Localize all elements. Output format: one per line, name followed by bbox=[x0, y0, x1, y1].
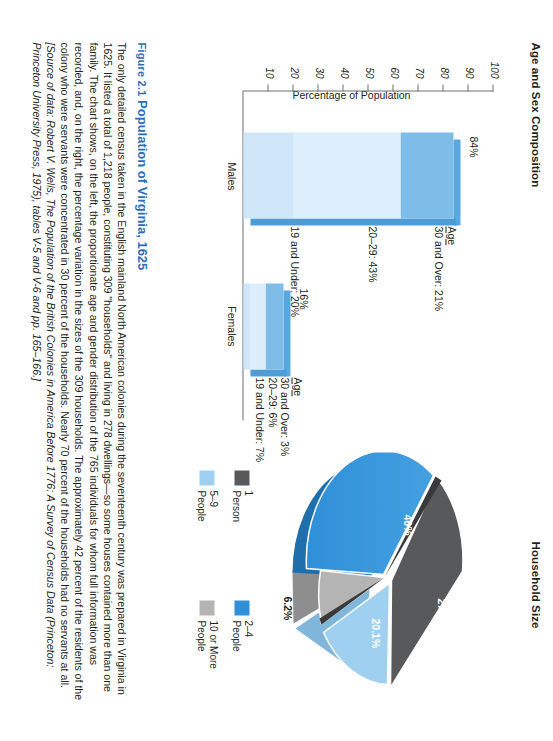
legend-swatch-1-person bbox=[234, 470, 249, 485]
legend-item-5-9: 5–9 People bbox=[195, 470, 218, 522]
figure-canvas: Age and Sex Composition Percentage of Po… bbox=[0, 0, 553, 741]
y-tick-label: 60 bbox=[388, 44, 399, 78]
y-tick-label: 50 bbox=[363, 44, 374, 78]
y-tick-mark bbox=[367, 84, 368, 91]
y-tick-label: 40 bbox=[338, 44, 349, 78]
bar-chart-title: Age and Sex Composition bbox=[529, 42, 541, 187]
figure-number: Figure 2.1 bbox=[135, 42, 147, 96]
rotated-page-wrapper: Age and Sex Composition Percentage of Po… bbox=[0, 0, 553, 741]
pie-legend-column-right: 2–4 People 10 or More People bbox=[183, 600, 253, 668]
y-tick-mark bbox=[392, 84, 393, 91]
males-category-label: Males bbox=[225, 130, 237, 222]
y-tick-mark bbox=[292, 84, 293, 91]
legend-label-2-4: 2–4 People bbox=[230, 620, 253, 651]
males-age-20to29: 20–29: 43% bbox=[366, 226, 379, 282]
caption-source-text: [Source of data: Robert V. Wells, The Po… bbox=[30, 42, 56, 667]
pie-chart-title: Household Size bbox=[529, 541, 541, 628]
legend-swatch-5-9 bbox=[199, 470, 214, 485]
pie-chart-graphic: 46% 27.8% 20.1% 6.2% bbox=[259, 452, 509, 702]
figure-title: Population of Virginia, 1625 bbox=[134, 100, 149, 270]
y-tick-label: 80 bbox=[438, 44, 449, 78]
females-age-heading: Age bbox=[291, 377, 303, 396]
females-age-annotation: Age 30 and Over: 3% 20–29: 6% 19 and Und… bbox=[253, 377, 303, 462]
y-tick-mark bbox=[492, 84, 493, 91]
females-age-20to29: 20–29: 6% bbox=[266, 377, 278, 427]
y-tick-mark bbox=[317, 84, 318, 91]
legend-label-10-or-more: 10 or More People bbox=[195, 620, 218, 668]
y-tick-mark bbox=[342, 84, 343, 91]
y-tick-label: 100 bbox=[488, 44, 499, 78]
females-category-label: Females bbox=[225, 280, 237, 372]
pie-svg bbox=[259, 452, 509, 702]
bar-females bbox=[243, 283, 290, 369]
legend-item-2-4: 2–4 People bbox=[230, 600, 253, 668]
y-tick-label: 10 bbox=[263, 44, 274, 78]
legend-item-10-or-more: 10 or More People bbox=[195, 600, 218, 668]
caption-title-line: Figure 2.1 Population of Virginia, 1625 bbox=[134, 42, 149, 710]
females-total-label: 16% bbox=[297, 288, 309, 309]
males-age-annotation: Age 30 and Over: 21% bbox=[432, 226, 457, 311]
pie-label-10-or-more: 6.2% bbox=[281, 596, 293, 620]
pie-legend-column-left: 1 Person 5–9 People bbox=[183, 470, 253, 522]
figure-graphic-area: Age and Sex Composition Percentage of Po… bbox=[155, 0, 553, 741]
legend-item-1-person: 1 Person bbox=[230, 470, 253, 522]
y-tick-label: 30 bbox=[313, 44, 324, 78]
females-age-19under: 19 and Under: 7% bbox=[254, 377, 266, 462]
pie-label-2-4: 46% bbox=[401, 514, 413, 535]
legend-swatch-2-4 bbox=[234, 600, 249, 615]
females-age-30plus: 30 and Over: 3% bbox=[279, 377, 291, 456]
y-tick-label: 20 bbox=[288, 44, 299, 78]
males-total-label: 84% bbox=[467, 136, 479, 157]
y-tick-mark bbox=[442, 84, 443, 91]
caption-body: The only detailed census taken in the En… bbox=[57, 42, 128, 710]
y-tick-mark bbox=[267, 84, 268, 91]
y-tick-mark bbox=[467, 84, 468, 91]
pie-label-1-person: 27.8% bbox=[435, 598, 447, 628]
caption-source: [Source of data: Robert V. Wells, The Po… bbox=[29, 42, 57, 710]
figure-caption: Figure 2.1 Population of Virginia, 1625 … bbox=[29, 42, 149, 710]
legend-label-1-person: 1 Person bbox=[230, 490, 253, 522]
y-tick-label: 70 bbox=[413, 44, 424, 78]
bar-males bbox=[243, 132, 460, 218]
males-age-heading: Age bbox=[445, 226, 457, 245]
legend-swatch-10-or-more bbox=[199, 600, 214, 615]
y-tick-label: 90 bbox=[463, 44, 474, 78]
pie-label-5-9: 20.1% bbox=[369, 618, 381, 648]
legend-label-5-9: 5–9 People bbox=[195, 490, 218, 521]
males-age-30plus: 30 and Over: 21% bbox=[433, 226, 445, 311]
y-tick-mark bbox=[417, 84, 418, 91]
